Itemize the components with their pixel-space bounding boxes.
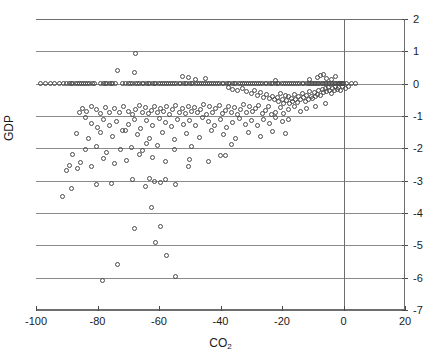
data-point	[157, 116, 162, 121]
data-point	[286, 117, 291, 122]
data-point	[180, 74, 185, 79]
data-point	[67, 163, 72, 168]
y-tick-mark	[402, 245, 408, 246]
data-point	[133, 51, 138, 56]
data-point	[135, 132, 140, 137]
x-tick-mark	[36, 306, 37, 311]
data-point	[267, 121, 272, 126]
y-tick-mark	[402, 181, 408, 182]
x-tick-label: -80	[90, 316, 106, 327]
y-tick-mark	[402, 148, 408, 149]
data-point	[278, 105, 283, 110]
x-tick-label: -100	[25, 316, 47, 327]
data-point	[183, 111, 188, 116]
data-point	[233, 136, 238, 141]
data-point	[89, 164, 94, 169]
data-point	[150, 155, 155, 160]
gridline-y	[36, 213, 405, 214]
data-point	[187, 157, 192, 162]
data-point	[243, 122, 248, 127]
data-point	[220, 111, 225, 116]
data-point	[74, 131, 79, 136]
data-point	[95, 125, 100, 130]
data-point	[143, 184, 148, 189]
data-point	[77, 110, 82, 115]
gridline-y	[36, 278, 405, 279]
data-point	[221, 132, 226, 137]
plot-area	[36, 19, 405, 310]
data-point	[258, 134, 263, 139]
data-point	[89, 121, 94, 126]
gridline-y	[36, 19, 405, 20]
data-point	[158, 180, 163, 185]
data-point	[189, 144, 194, 149]
gridline-y	[36, 181, 405, 182]
y-tick-label: -3	[413, 176, 423, 187]
data-point	[237, 116, 242, 121]
data-point	[132, 226, 137, 231]
data-point	[163, 159, 168, 164]
y-tick-mark	[402, 19, 408, 20]
data-point	[172, 147, 177, 152]
y-tick-label: -5	[413, 240, 423, 251]
data-point	[229, 142, 234, 147]
data-point	[137, 152, 142, 157]
data-point	[121, 104, 126, 109]
data-point	[144, 141, 149, 146]
data-point	[140, 110, 145, 115]
data-point	[298, 109, 303, 114]
data-point	[244, 110, 249, 115]
data-point	[124, 158, 129, 163]
data-point	[186, 104, 191, 109]
data-point	[132, 70, 137, 75]
data-point	[126, 122, 131, 127]
data-point	[113, 81, 118, 86]
data-point	[252, 88, 257, 93]
data-point	[218, 153, 223, 158]
x-tick-label: 0	[340, 316, 346, 327]
data-point	[224, 125, 229, 130]
data-point	[187, 118, 192, 123]
y-tick-label: -7	[413, 305, 423, 316]
data-point	[286, 107, 291, 112]
data-point	[114, 119, 119, 124]
data-point	[100, 278, 105, 283]
data-point	[138, 126, 143, 131]
data-point	[155, 110, 160, 115]
data-point	[175, 117, 180, 122]
x-axis-title: CO2	[0, 336, 441, 350]
data-point	[146, 111, 151, 116]
data-point	[283, 131, 288, 136]
x-tick-mark	[98, 306, 99, 311]
data-point	[83, 147, 88, 152]
data-point	[200, 115, 205, 120]
data-point	[184, 131, 189, 136]
data-point	[152, 179, 157, 184]
data-point	[353, 81, 358, 86]
data-point	[212, 123, 217, 128]
data-point	[129, 145, 134, 150]
data-point	[126, 109, 131, 114]
data-point	[223, 153, 228, 158]
data-point	[147, 136, 152, 141]
data-point	[238, 107, 243, 112]
data-point	[78, 160, 83, 165]
data-point	[89, 104, 94, 109]
data-point	[147, 176, 152, 181]
data-point	[250, 109, 255, 114]
data-point	[163, 177, 168, 182]
data-point	[133, 107, 138, 112]
y-tick-label: 2	[413, 14, 419, 25]
data-point	[94, 144, 99, 149]
data-point	[280, 119, 285, 124]
data-point	[86, 136, 91, 141]
data-point	[206, 159, 211, 164]
data-point	[292, 104, 297, 109]
y-tick-label: -6	[413, 273, 423, 284]
data-point	[104, 150, 109, 155]
y-tick-mark	[402, 213, 408, 214]
data-point	[195, 110, 200, 115]
data-point	[107, 110, 112, 115]
data-point	[172, 137, 177, 142]
data-point	[218, 117, 223, 122]
